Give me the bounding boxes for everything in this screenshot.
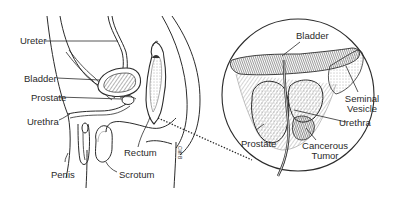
rectum-side bbox=[146, 41, 166, 124]
label-scrotum: Scrotum bbox=[119, 170, 154, 180]
prostate-side bbox=[120, 96, 136, 105]
inset-label-urethra: Urethra bbox=[339, 118, 371, 128]
label-rectum: Rectum bbox=[124, 148, 157, 158]
inset-label-prostate: Prostate bbox=[241, 139, 276, 149]
label-bladder: Bladder bbox=[24, 74, 57, 84]
label-ureter: Ureter bbox=[20, 36, 46, 46]
bladder-side bbox=[98, 68, 141, 97]
inset-label-tumor-2: Tumor bbox=[300, 151, 350, 161]
inset-label-bladder: Bladder bbox=[296, 31, 329, 41]
label-urethra: Urethra bbox=[27, 117, 59, 127]
label-prostate: Prostate bbox=[31, 93, 66, 103]
label-penis: Penis bbox=[51, 170, 75, 180]
artist-signature: Cliff B bbox=[177, 146, 183, 160]
inset-label-seminal-vesicle-2: Vesicle bbox=[342, 104, 382, 114]
